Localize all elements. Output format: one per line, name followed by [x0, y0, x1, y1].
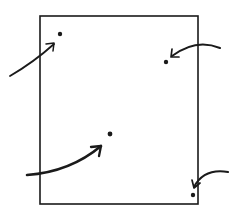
- lower-right-corner-point-group: [191, 171, 228, 197]
- upper-right-point-dot: [164, 60, 168, 64]
- lower-right-corner-point-dot: [191, 193, 195, 197]
- center-point-arrow-shaft: [27, 146, 101, 175]
- diagram-canvas: [0, 0, 239, 212]
- square-boundary: [40, 16, 198, 204]
- points-layer: [10, 32, 228, 197]
- upper-left-point-dot: [58, 32, 62, 36]
- upper-right-point-group: [164, 44, 220, 64]
- center-point-dot: [108, 132, 113, 137]
- upper-left-point-arrow-shaft: [10, 44, 54, 76]
- upper-left-point-group: [10, 32, 62, 76]
- diagram-svg: [0, 0, 239, 212]
- upper-right-point-arrow-shaft: [172, 44, 220, 56]
